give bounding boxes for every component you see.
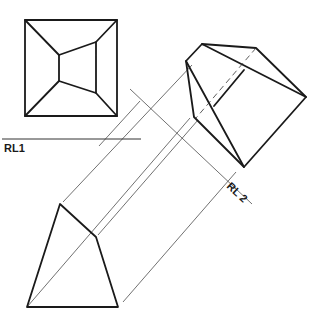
frustum-outline xyxy=(186,44,306,167)
plan-view xyxy=(25,20,117,116)
plan-inner-face xyxy=(59,42,96,93)
frustum-edge xyxy=(202,44,306,97)
frustum-edge xyxy=(214,70,244,106)
rl2-label: RL 2 xyxy=(225,180,250,205)
projector xyxy=(98,120,198,235)
projector xyxy=(123,172,236,302)
diagram-canvas: RL1 RL 2 xyxy=(0,0,328,323)
plan-edge xyxy=(96,93,117,116)
drawing: RL1 RL 2 xyxy=(0,0,328,323)
plan-edge xyxy=(25,81,59,116)
rl1-label: RL1 xyxy=(4,142,25,154)
projector xyxy=(63,65,192,202)
plan-edge xyxy=(25,20,59,55)
plan-edge xyxy=(96,20,117,42)
auxiliary-elevation xyxy=(186,44,306,167)
projection-lines xyxy=(27,65,236,307)
hidden-edge xyxy=(196,48,256,118)
frustum-edge xyxy=(186,61,244,167)
